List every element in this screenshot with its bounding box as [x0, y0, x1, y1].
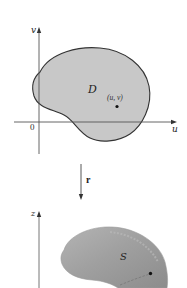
mapping-r: r	[79, 164, 91, 200]
point-uv-label: (u, v)	[107, 93, 123, 102]
z-axis-arrow-icon	[37, 211, 41, 217]
origin-label: 0	[30, 122, 35, 132]
xyz-space: z S	[30, 209, 168, 288]
surface-s-label: S	[120, 251, 127, 262]
mapping-arrow-down-icon	[79, 194, 83, 200]
region-d-label: D	[87, 83, 97, 96]
mapping-label: r	[86, 174, 91, 185]
u-axis-label: u	[172, 124, 178, 134]
v-axis-label: v	[31, 25, 36, 35]
point-uv-dot	[115, 105, 118, 108]
surface-s	[61, 227, 168, 288]
parametric-surface-diagram: v u 0 D (u, v) r z S	[0, 0, 187, 288]
v-axis-arrow-icon	[37, 27, 41, 33]
uv-plane: v u 0 D (u, v)	[14, 25, 178, 154]
z-axis-label: z	[30, 209, 36, 218]
image-point-dot	[149, 272, 152, 275]
